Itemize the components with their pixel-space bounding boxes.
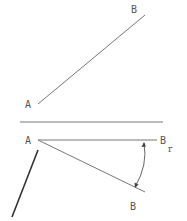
label-br-subscript: r: [168, 144, 173, 154]
label-b-top: B: [131, 4, 137, 15]
line-ab-top: [38, 15, 145, 104]
label-b-bottom: B: [130, 201, 136, 212]
thick-line: [12, 150, 38, 217]
label-br: B: [160, 135, 166, 146]
line-ab-bottom: [38, 140, 145, 192]
label-a-top: A: [25, 99, 31, 110]
label-a-bottom: A: [25, 135, 31, 146]
diagram-canvas: A B A B r B: [0, 0, 187, 221]
angle-arc: [135, 143, 145, 187]
arrow-head-top-icon: [142, 142, 147, 147]
